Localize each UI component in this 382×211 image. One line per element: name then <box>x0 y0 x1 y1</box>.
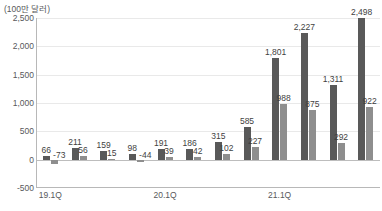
y-tick-label: 500 <box>0 126 34 136</box>
bar <box>108 159 115 161</box>
bar-value-label: 15 <box>107 148 116 158</box>
y-tick-label: 2,000 <box>0 41 34 51</box>
bar-value-label: 292 <box>334 132 348 142</box>
y-axis-tick-labels: 2,5002,0001,5001,0005000-500 <box>0 18 34 188</box>
bar-value-label: 1,801 <box>265 47 286 57</box>
bar <box>51 160 58 164</box>
bar <box>358 18 365 160</box>
bar-value-label: 585 <box>240 116 254 126</box>
bar-value-label: 988 <box>277 93 291 103</box>
bar <box>280 104 287 160</box>
bar-value-label: -73 <box>53 150 65 160</box>
bar <box>252 147 259 160</box>
bar-chart: (100만 달러) 2,5002,0001,5001,0005000-500 6… <box>0 0 382 211</box>
bar-value-label: 39 <box>164 146 173 156</box>
bar-value-label: 1,311 <box>323 74 344 84</box>
bar-value-label: 42 <box>193 146 202 156</box>
bar <box>301 33 308 159</box>
bar <box>166 157 173 159</box>
bar-value-label: 922 <box>363 96 377 106</box>
x-tick-label: 19.1Q <box>39 190 62 200</box>
bar-value-label: 102 <box>219 143 233 153</box>
bar-value-label: 56 <box>78 145 87 155</box>
bar-value-label: 66 <box>42 145 51 155</box>
bar-value-label: 227 <box>248 136 262 146</box>
y-tick-label: 1,000 <box>0 98 34 108</box>
bar <box>129 154 136 160</box>
bar-value-label: 2,227 <box>294 22 315 32</box>
y-tick-label: 2,500 <box>0 13 34 23</box>
x-axis-tick-labels: 19.1Q20.1Q21.1Q <box>36 190 380 204</box>
bar <box>223 154 230 160</box>
y-tick-label: 1,500 <box>0 70 34 80</box>
bar <box>80 156 87 159</box>
y-tick-label: -500 <box>0 183 34 193</box>
bar-value-label: 98 <box>128 143 137 153</box>
bar <box>194 157 201 159</box>
bar <box>330 85 337 159</box>
bar-value-label: 875 <box>305 99 319 109</box>
x-tick-label: 21.1Q <box>268 190 291 200</box>
bar-series-group: 66-73211561591598-4419139186423151025852… <box>36 18 380 188</box>
bar <box>309 110 316 160</box>
bar <box>338 143 345 160</box>
bar <box>137 160 144 162</box>
bar <box>43 156 50 160</box>
plot-area: 66-73211561591598-4419139186423151025852… <box>36 18 380 188</box>
bar-value-label: 315 <box>211 131 225 141</box>
bar-value-label: -44 <box>139 150 151 160</box>
x-tick-label: 20.1Q <box>153 190 176 200</box>
bar <box>272 58 279 160</box>
y-tick-label: 0 <box>0 155 34 165</box>
bar <box>366 107 373 159</box>
bar-value-label: 2,498 <box>351 7 372 17</box>
